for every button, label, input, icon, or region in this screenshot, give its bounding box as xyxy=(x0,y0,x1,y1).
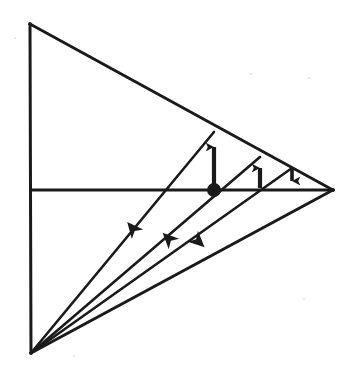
triangle-outline-group xyxy=(30,24,333,353)
paper-speck xyxy=(308,77,310,79)
lower-hypotenuse xyxy=(31,190,333,353)
diagram-root xyxy=(0,0,348,385)
paper-speck xyxy=(73,355,75,357)
vertical-arrow-group xyxy=(214,147,292,188)
cevian-group xyxy=(31,132,292,353)
cevian-two xyxy=(31,157,260,353)
paper-speck xyxy=(250,73,252,75)
node-group xyxy=(207,183,221,197)
center-dot xyxy=(207,183,221,197)
geometry-figure xyxy=(0,0,348,385)
diagonal-arrowhead-three xyxy=(188,231,210,253)
upper-hypotenuse xyxy=(30,24,333,190)
paper-speck xyxy=(303,298,305,300)
paper-speck xyxy=(14,37,16,39)
